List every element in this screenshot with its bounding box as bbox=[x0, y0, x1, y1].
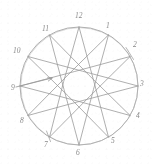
point-label-10: 10 bbox=[13, 47, 21, 55]
point-label-1: 1 bbox=[106, 22, 110, 30]
point-label-3: 3 bbox=[140, 80, 144, 88]
star-polygon-figure bbox=[0, 0, 154, 165]
point-label-9: 9 bbox=[11, 84, 15, 92]
point-label-12: 12 bbox=[75, 12, 83, 20]
point-label-11: 11 bbox=[42, 25, 49, 33]
point-label-2: 2 bbox=[133, 41, 137, 49]
point-label-5: 5 bbox=[111, 137, 115, 145]
chord-6-11 bbox=[50, 35, 80, 145]
point-label-6: 6 bbox=[76, 149, 80, 157]
chord-10-3 bbox=[28, 57, 138, 87]
outer-circle bbox=[20, 27, 138, 145]
point-label-8: 8 bbox=[20, 117, 24, 125]
point-label-4: 4 bbox=[136, 112, 140, 120]
point-label-7: 7 bbox=[44, 141, 48, 149]
